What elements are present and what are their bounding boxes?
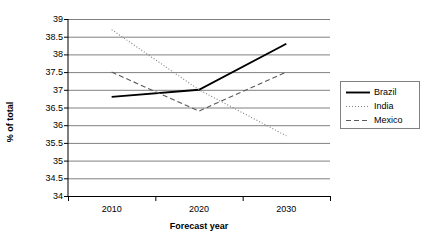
legend-label: Mexico bbox=[371, 115, 403, 125]
plot-svg bbox=[68, 19, 330, 196]
chart-legend: BrazilIndiaMexico bbox=[340, 81, 420, 129]
y-tick-label: 36.5 bbox=[45, 103, 63, 113]
y-tick-label: 39 bbox=[53, 14, 63, 24]
series-line-mexico bbox=[112, 72, 287, 111]
plot-area bbox=[68, 19, 330, 196]
legend-swatch-icon bbox=[345, 87, 371, 97]
legend-swatch-icon bbox=[345, 115, 371, 125]
x-axis-tick-labels: 201020202030 bbox=[68, 200, 330, 218]
x-tick-label: 2030 bbox=[243, 200, 330, 218]
x-tick-label: 2020 bbox=[155, 200, 242, 218]
series-line-india bbox=[112, 30, 287, 136]
y-axis-tick-labels: 3938.53837.53736.53635.53534.534 bbox=[22, 12, 66, 202]
series-line-brazil bbox=[112, 44, 287, 97]
legend-swatch-icon bbox=[345, 101, 371, 111]
legend-label: Brazil bbox=[371, 87, 397, 97]
gridlines bbox=[68, 20, 330, 197]
legend-item-india[interactable]: India bbox=[341, 99, 419, 113]
y-axis-title: % of total bbox=[0, 0, 20, 244]
y-tick-label: 34 bbox=[53, 191, 63, 201]
x-axis-title: Forecast year bbox=[68, 221, 330, 231]
y-tick-label: 36 bbox=[53, 120, 63, 130]
y-tick-label: 38 bbox=[53, 49, 63, 59]
legend-item-brazil[interactable]: Brazil bbox=[341, 85, 419, 99]
line-chart: % of total 3938.53837.53736.53635.53534.… bbox=[0, 0, 424, 244]
y-tick-label: 34.5 bbox=[45, 173, 63, 183]
y-tick-label: 35 bbox=[53, 156, 63, 166]
x-tick-label: 2010 bbox=[68, 200, 155, 218]
y-tick-label: 37.5 bbox=[45, 67, 63, 77]
y-tick-label: 38.5 bbox=[45, 32, 63, 42]
y-tick-label: 37 bbox=[53, 85, 63, 95]
series-lines bbox=[112, 30, 287, 136]
y-tick-label: 35.5 bbox=[45, 138, 63, 148]
legend-item-mexico[interactable]: Mexico bbox=[341, 113, 419, 127]
legend-label: India bbox=[371, 101, 394, 111]
